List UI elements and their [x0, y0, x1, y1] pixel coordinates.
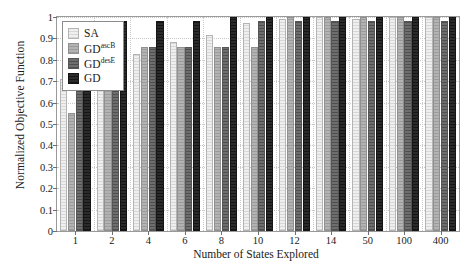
gridline-vertical [422, 17, 423, 231]
y-tick-label: 1 [23, 12, 53, 23]
legend-label: GDascB [84, 42, 115, 55]
bar [397, 17, 404, 231]
bar [193, 21, 200, 231]
x-tick-label: 8 [219, 235, 224, 246]
gridline-vertical [313, 17, 314, 231]
gridline-vertical [240, 17, 241, 231]
y-tick-mark [53, 17, 57, 18]
bar [68, 113, 75, 231]
x-tick-label: 4 [146, 235, 151, 246]
x-tick-label: 14 [326, 235, 337, 246]
bar [170, 42, 177, 231]
bar [433, 17, 440, 231]
bar [425, 17, 432, 231]
bar [316, 17, 323, 231]
y-tick-label: 0.4 [23, 140, 53, 151]
y-tick-label: 0.1 [23, 204, 53, 215]
bar [60, 79, 67, 231]
bar [324, 17, 331, 231]
legend-label: GDdesE [84, 57, 115, 70]
bar [230, 17, 237, 231]
bar [206, 35, 213, 231]
bar [303, 17, 310, 231]
legend-label: SA [84, 28, 99, 40]
bar [360, 17, 367, 231]
bar [389, 17, 396, 231]
legend-item[interactable]: SA [68, 26, 115, 41]
x-tick-label: 10 [253, 235, 264, 246]
bar [368, 21, 375, 231]
gridline-vertical [167, 17, 168, 231]
legend-item[interactable]: GD [68, 71, 115, 86]
legend-swatch-icon [68, 73, 79, 84]
gridline-vertical [386, 17, 387, 231]
legend-swatch-icon [68, 43, 79, 54]
x-tick-label: 6 [182, 235, 187, 246]
y-tick-mark [53, 124, 57, 125]
legend-item[interactable]: GDdesE [68, 56, 115, 71]
legend-swatch-icon [68, 28, 79, 39]
bar [258, 21, 265, 231]
y-tick-mark [53, 210, 57, 211]
x-tick-label: 1 [73, 235, 78, 246]
bar [141, 47, 148, 231]
x-tick-label: 400 [433, 235, 449, 246]
bar [266, 17, 273, 231]
legend-label: GD [84, 73, 101, 85]
y-tick-label: 0 [23, 226, 53, 237]
bar [222, 47, 229, 231]
y-tick-mark [53, 60, 57, 61]
bar [404, 21, 411, 231]
bar [331, 21, 338, 231]
bar [177, 47, 184, 231]
x-axis-title: Number of States Explored [56, 248, 456, 260]
y-tick-mark [53, 81, 57, 82]
legend-item[interactable]: GDascB [68, 41, 115, 56]
bar [412, 17, 419, 231]
bar [287, 17, 294, 231]
bar [214, 47, 221, 231]
chart-legend: SAGDascBGDdesEGD [62, 21, 124, 91]
y-tick-mark [53, 231, 57, 232]
gridline-vertical [130, 17, 131, 231]
y-tick-label: 0.6 [23, 97, 53, 108]
gridline-vertical [203, 17, 204, 231]
bar [97, 72, 104, 231]
y-tick-label: 0.7 [23, 76, 53, 87]
y-tick-label: 0.3 [23, 161, 53, 172]
bar [149, 47, 156, 231]
y-tick-label: 0.8 [23, 54, 53, 65]
y-tick-mark [53, 103, 57, 104]
bar [251, 47, 258, 231]
bar [133, 54, 140, 231]
y-tick-label: 0.5 [23, 119, 53, 130]
x-tick-label: 2 [109, 235, 114, 246]
y-tick-label: 0.2 [23, 183, 53, 194]
bar [376, 17, 383, 231]
chart-figure: Normalized Objective Function 00.10.20.3… [0, 0, 470, 270]
y-tick-mark [53, 188, 57, 189]
bar [243, 23, 250, 231]
bar [352, 19, 359, 231]
gridline-vertical [276, 17, 277, 231]
x-tick-label: 50 [362, 235, 373, 246]
x-tick-label: 100 [396, 235, 412, 246]
bar [441, 21, 448, 231]
y-tick-label: 0.9 [23, 33, 53, 44]
bar [185, 47, 192, 231]
bar [279, 19, 286, 231]
y-tick-mark [53, 38, 57, 39]
legend-swatch-icon [68, 58, 79, 69]
gridline-vertical [349, 17, 350, 231]
y-tick-mark [53, 167, 57, 168]
y-tick-mark [53, 145, 57, 146]
bar [295, 21, 302, 231]
bar [339, 17, 346, 231]
bar [449, 17, 456, 231]
x-tick-label: 12 [289, 235, 300, 246]
bar [156, 21, 163, 231]
